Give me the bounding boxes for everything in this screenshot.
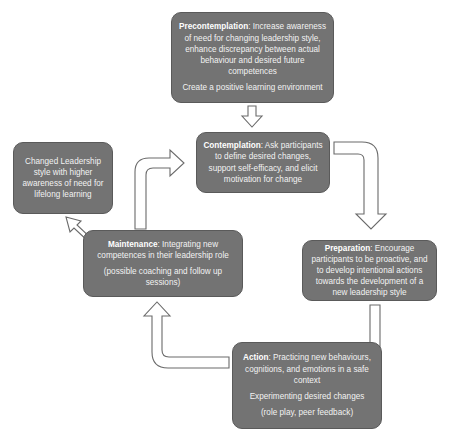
stage-maintenance: Maintenance: Integrating new competences…: [83, 230, 243, 297]
stage-precontemplation: Precontemplation: Increase awareness of …: [171, 12, 334, 103]
outcome-changed-leadership: Changed Leadership style with higher awa…: [13, 142, 113, 214]
arrow-bend-right-icon: [135, 150, 184, 229]
stage-contemplation: Contemplation: Ask participants to defin…: [196, 132, 330, 193]
stage-note: Create a positive learning environment: [178, 82, 327, 93]
arrow-bend-up-icon: [144, 302, 229, 368]
outcome-text: Changed Leadership style with higher awa…: [20, 156, 106, 201]
stage-title: Precontemplation: [179, 22, 248, 31]
stage-title: Action: [243, 353, 268, 362]
stage-preparation: Preparation: Encourage participants to b…: [302, 240, 437, 301]
stage-note: Experimenting desired changes: [239, 391, 375, 402]
arrow-down-icon: [242, 106, 262, 127]
stage-title: Preparation: [325, 244, 371, 253]
stage-note: (possible coaching and follow up session…: [90, 266, 236, 288]
stage-title: Maintenance: [108, 240, 158, 249]
stage-action: Action: Practicing new behaviours, cogni…: [232, 342, 382, 429]
stage-note-2: (role play, peer feedback): [239, 407, 375, 418]
stage-title: Contemplation: [203, 141, 260, 150]
arrow-bend-down-icon: [334, 142, 386, 229]
